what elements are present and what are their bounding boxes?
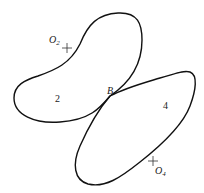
body-4-outline	[75, 71, 195, 184]
pivot-o2-label: O2	[49, 34, 60, 47]
body-4-label: 4	[163, 100, 168, 111]
pivot-o4-label: O4	[155, 165, 166, 178]
body-2-outline	[14, 13, 142, 122]
pivot-o2-marker	[62, 43, 72, 53]
diagram-canvas: O2 O4 2 4 B	[0, 0, 204, 193]
body-2-label: 2	[55, 93, 60, 104]
contact-point-label: B	[107, 85, 113, 96]
cam-diagram: O2 O4 2 4 B	[0, 0, 204, 193]
